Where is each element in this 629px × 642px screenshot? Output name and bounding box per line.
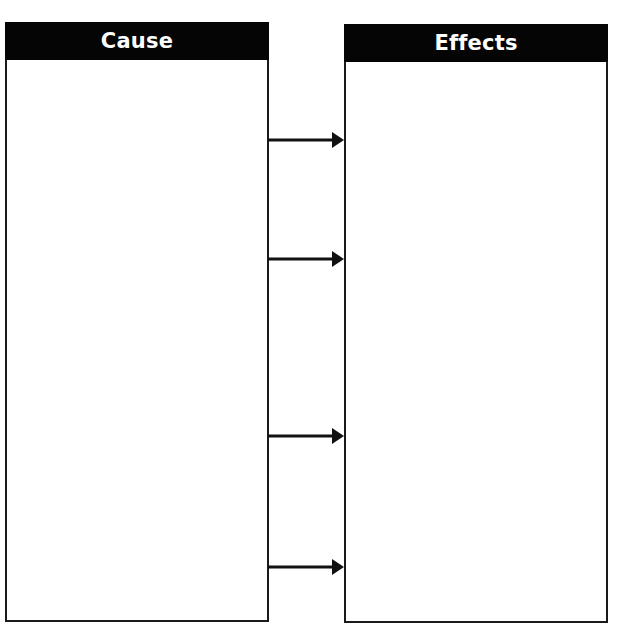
arrow-right-icon xyxy=(268,131,345,149)
effects-writing-area[interactable] xyxy=(346,62,606,621)
cause-header: Cause xyxy=(5,22,269,60)
cause-writing-area[interactable] xyxy=(7,60,267,620)
arrow-right-icon xyxy=(268,250,345,268)
cause-panel: Cause xyxy=(5,22,269,622)
arrow-right-icon xyxy=(268,558,345,576)
effects-panel: Effects xyxy=(344,24,608,623)
arrow-right-icon xyxy=(268,427,345,445)
effects-title: Effects xyxy=(434,31,517,55)
effects-header: Effects xyxy=(344,24,608,62)
cause-title: Cause xyxy=(101,29,173,53)
